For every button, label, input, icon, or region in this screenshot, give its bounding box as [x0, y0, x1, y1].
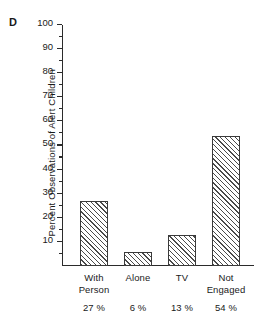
y-tick-label: 70: [27, 90, 53, 100]
y-tick-label: 20: [27, 211, 53, 221]
category-label-line: Person: [72, 284, 116, 296]
y-tick-minor: [59, 253, 62, 254]
x-axis-category-label: WithPerson: [72, 272, 116, 295]
y-tick-minor: [59, 205, 62, 206]
y-tick-major: 90: [57, 48, 62, 49]
y-tick-label: 30: [27, 187, 53, 197]
y-tick-major: 20: [57, 217, 62, 218]
bar: [124, 252, 152, 266]
y-tick-minor: [59, 36, 62, 37]
y-tick-label: 100: [27, 18, 53, 28]
category-label-line: TV: [160, 272, 204, 284]
y-axis-line: [62, 25, 63, 266]
y-tick-minor: [59, 108, 62, 109]
category-label-line: Engaged: [204, 284, 248, 296]
y-tick-label: 60: [27, 114, 53, 124]
y-tick-major: 30: [57, 193, 62, 194]
y-tick-label: 50: [27, 138, 53, 148]
y-tick-minor: [59, 60, 62, 61]
y-tick-label: 10: [27, 235, 53, 245]
y-axis-title: Percent Observations of Alert Children: [47, 53, 57, 253]
y-tick-major: 60: [57, 120, 62, 121]
category-label-line: Not: [204, 272, 248, 284]
value-label: 27 %: [72, 303, 116, 313]
plot-area: 102030405060708090100: [62, 25, 254, 266]
x-axis-category-label: Alone: [116, 272, 160, 284]
figure-panel-d: D Percent Observations of Alert Children…: [0, 0, 265, 324]
y-tick-minor: [59, 229, 62, 230]
value-label-row: 27 %6 %13 %54 %: [62, 303, 254, 319]
y-tick-label: 80: [27, 66, 53, 76]
bar: [80, 201, 108, 266]
y-tick-major: 50: [57, 144, 62, 145]
y-tick-major: 100: [57, 24, 62, 25]
y-tick-major: 10: [57, 241, 62, 242]
bar: [212, 136, 240, 266]
x-axis-category-label: NotEngaged: [204, 272, 248, 295]
value-label: 54 %: [204, 303, 248, 313]
y-tick-minor: [59, 181, 62, 182]
y-tick-label: 40: [27, 163, 53, 173]
y-tick-minor: [59, 84, 62, 85]
y-tick-label: 90: [27, 42, 53, 52]
y-tick-major: 70: [57, 96, 62, 97]
y-tick-minor: [59, 156, 62, 157]
x-axis-category-labels: WithPersonAloneTVNotEngaged: [62, 272, 254, 302]
x-axis-category-label: TV: [160, 272, 204, 284]
category-label-line: With: [72, 272, 116, 284]
y-tick-minor: [59, 132, 62, 133]
panel-letter: D: [9, 17, 17, 28]
category-label-line: Alone: [116, 272, 160, 284]
y-tick-major: 40: [57, 169, 62, 170]
y-tick-major: 80: [57, 72, 62, 73]
value-label: 13 %: [160, 303, 204, 313]
value-label: 6 %: [116, 303, 160, 313]
bar: [168, 235, 196, 266]
